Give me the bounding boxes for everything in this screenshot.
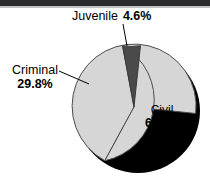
pie-label-juvenile-name: Juvenile [72, 9, 118, 23]
leader-line-juvenile [123, 24, 127, 46]
pie-svg [0, 0, 210, 186]
pie-graphic [0, 0, 210, 186]
pie-label-criminal-value: 29.8% [8, 77, 62, 91]
pie-label-juvenile: Juvenile4.6% [72, 9, 151, 23]
pie-label-criminal-name: Criminal [8, 63, 62, 77]
pie-label-juvenile-value: 4.6% [123, 9, 152, 23]
pie-label-civil-value: 65.5% [139, 117, 185, 130]
pie-label-civil: Civil 65.5% [139, 104, 185, 131]
pie-label-criminal: Criminal 29.8% [8, 63, 62, 91]
pie-chart-figure: Juvenile4.6% Criminal 29.8% Civil 65.5% [0, 0, 210, 186]
pie-label-civil-name: Civil [139, 104, 185, 117]
